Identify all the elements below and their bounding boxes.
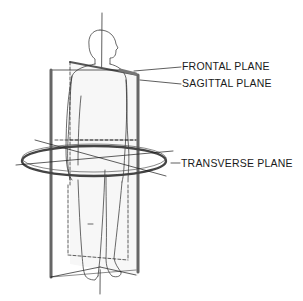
sagittal-leader-line (140, 80, 181, 84)
sagittal-plane-label: SAGITTAL PLANE (182, 77, 272, 89)
frontal-plane-label: FRONTAL PLANE (182, 60, 270, 72)
figure-illustration (0, 0, 303, 301)
frontal-leader-line (134, 67, 181, 71)
anatomical-planes-diagram: FRONTAL PLANE SAGITTAL PLANE TRANSVERSE … (0, 0, 303, 301)
sagittal-plane (68, 62, 138, 276)
transverse-plane-label: TRANSVERSE PLANE (181, 157, 293, 169)
